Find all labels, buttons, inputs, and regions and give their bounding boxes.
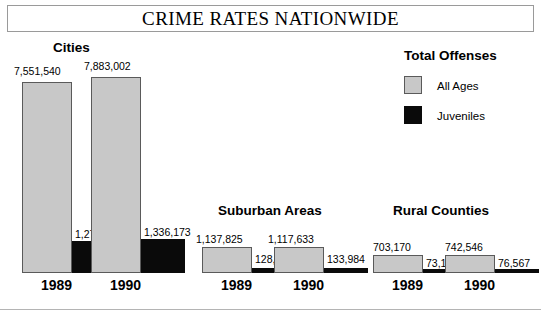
- legend-label-all-ages: All Ages: [437, 80, 479, 92]
- chart-canvas: CRIME RATES NATIONWIDE Cities 7,551,540 …: [0, 0, 541, 310]
- bar-cities-1989-all-ages: [22, 82, 72, 273]
- bar-rural-1989-all-ages: [373, 255, 423, 273]
- value-label-suburban-1990-all-ages: 1,117,633: [268, 233, 314, 245]
- bar-cities-1990-all-ages: [91, 77, 141, 273]
- value-label-suburban-1989-all-ages: 1,137,825: [196, 233, 243, 245]
- legend-title: Total Offenses: [404, 48, 497, 63]
- group-heading-rural-counties: Rural Counties: [393, 203, 489, 218]
- value-label-suburban-1990-juveniles: 133,984: [327, 253, 365, 265]
- bar-rural-1990-juveniles: [495, 269, 539, 273]
- value-label-rural-1990-juveniles: 76,567: [498, 257, 530, 269]
- legend-label-juveniles: Juveniles: [437, 110, 485, 122]
- legend-swatch-juveniles: [404, 106, 422, 124]
- year-label-rural-1989: 1989: [392, 277, 423, 293]
- chart-title-box: CRIME RATES NATIONWIDE: [7, 5, 534, 32]
- bar-cities-1990-juveniles: [141, 239, 185, 273]
- page-title: CRIME RATES NATIONWIDE: [142, 8, 399, 30]
- group-heading-suburban-areas: Suburban Areas: [218, 203, 322, 218]
- legend-swatch-all-ages: [404, 76, 422, 94]
- year-label-suburban-1990: 1990: [293, 277, 324, 293]
- bar-rural-1990-all-ages: [445, 255, 495, 273]
- value-label-rural-1989-all-ages: 703,170: [373, 241, 411, 253]
- bar-suburban-1990-all-ages: [274, 247, 324, 273]
- value-label-cities-1990-all-ages: 7,883,002: [84, 60, 131, 72]
- value-label-rural-1990-all-ages: 742,546: [445, 241, 483, 253]
- year-label-cities-1989: 1989: [41, 277, 72, 293]
- group-heading-cities: Cities: [53, 40, 90, 55]
- year-label-rural-1990: 1990: [464, 277, 495, 293]
- year-label-suburban-1989: 1989: [221, 277, 252, 293]
- bar-suburban-1990-juveniles: [324, 268, 368, 273]
- value-label-cities-1989-all-ages: 7,551,540: [14, 65, 61, 77]
- value-label-cities-1990-juveniles: 1,336,173: [144, 226, 191, 238]
- year-label-cities-1990: 1990: [110, 277, 141, 293]
- bar-suburban-1989-all-ages: [202, 247, 252, 273]
